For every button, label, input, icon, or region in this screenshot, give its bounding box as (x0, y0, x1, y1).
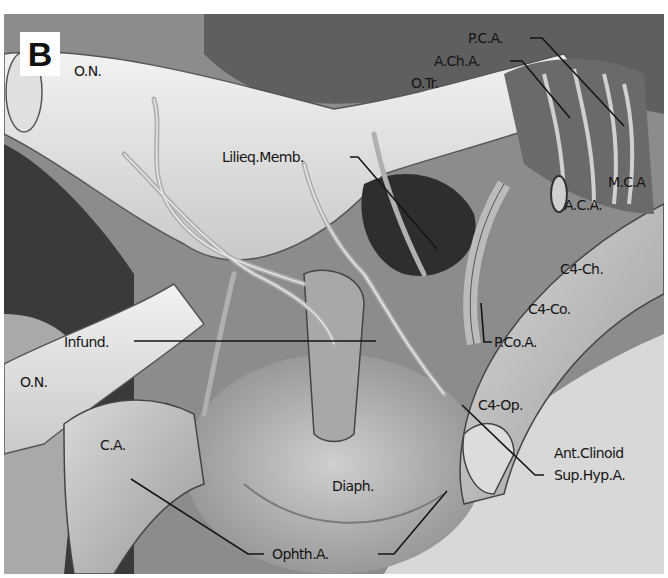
label-optic-nerve-top: O.N. (74, 63, 101, 79)
label-ophthalmic-artery: Ophth.A. (272, 546, 329, 562)
label-anterior-clinoid: Ant.Clinoid (554, 445, 624, 461)
label-infundibulum: Infund. (64, 334, 109, 350)
label-anterior-cerebral-artery: A.C.A. (564, 197, 602, 213)
label-c4-communicating: C4-Co. (528, 301, 571, 317)
label-c4-choroidal: C4-Ch. (560, 261, 603, 277)
label-diaphragma-sellae: Diaph. (332, 478, 374, 494)
label-optic-nerve-bottom: O.N. (20, 374, 47, 390)
label-middle-cerebral-artery: M.C.A (608, 174, 645, 190)
anatomical-illustration: B O.N. O.Tr. P.C.A. A.Ch.A. M.C.A A.C.A.… (4, 14, 664, 574)
label-superior-hypophyseal-artery: Sup.Hyp.A. (554, 467, 625, 483)
panel-letter-badge: B (20, 32, 60, 76)
label-liliequist-membrane: Lilieq.Memb. (222, 149, 304, 165)
label-c4-ophthalmic: C4-Op. (478, 397, 523, 413)
label-optic-tract: O.Tr. (411, 75, 438, 91)
label-carotid-artery: C.A. (100, 437, 126, 453)
label-posterior-cerebral-artery: P.C.A. (468, 30, 503, 46)
label-posterior-communicating-artery: P.Co.A. (494, 334, 537, 350)
label-anterior-choroidal-artery: A.Ch.A. (434, 53, 480, 69)
